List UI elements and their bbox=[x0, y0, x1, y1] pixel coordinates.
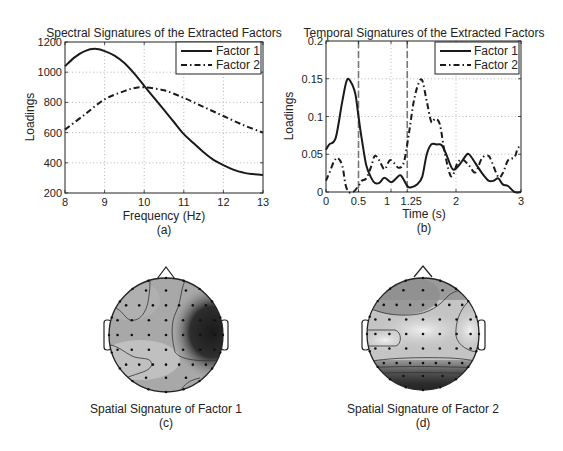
y-tick-label: 0.05 bbox=[302, 148, 323, 160]
electrode-dot bbox=[439, 333, 442, 336]
x-tick-label: 10 bbox=[138, 196, 150, 208]
electrode-dot bbox=[469, 347, 472, 350]
electrode-dot bbox=[148, 349, 151, 352]
electrode-dot bbox=[138, 304, 141, 307]
topomap-c-title: Spatial Signature of Factor 1 bbox=[90, 402, 242, 416]
y-tick-label: 1000 bbox=[38, 66, 62, 78]
electrode-dot bbox=[388, 333, 391, 336]
x-tick-label: 1 bbox=[384, 195, 390, 207]
electrode-dot bbox=[199, 319, 202, 322]
electrode-dot bbox=[478, 333, 480, 335]
topomap-d-caption: (d) bbox=[416, 416, 431, 430]
electrode-dot bbox=[182, 349, 185, 352]
electrode-dot bbox=[145, 289, 148, 292]
electrode-dot bbox=[422, 347, 425, 350]
chart-b-ylabel: Loadings bbox=[282, 92, 296, 141]
electrode-dot bbox=[119, 300, 121, 302]
x-tick-label: 1.25 bbox=[401, 195, 422, 207]
topomap-c-caption: (c) bbox=[159, 416, 173, 430]
electrode-dot bbox=[461, 304, 464, 307]
electrode-dot bbox=[376, 366, 378, 368]
electrode-dot bbox=[404, 280, 406, 282]
chart-a-legend: Factor 1 Factor 2 bbox=[176, 42, 261, 74]
electrode-dot bbox=[376, 300, 378, 302]
electrode-dot bbox=[402, 375, 405, 378]
electrode-dot bbox=[448, 362, 451, 365]
y-tick-label: 800 bbox=[44, 96, 62, 108]
electrode-dot bbox=[455, 378, 457, 380]
electrode-dot bbox=[439, 386, 441, 388]
chart-a-xlabel: Frequency (Hz) bbox=[123, 209, 206, 223]
electrode-dot bbox=[116, 334, 119, 337]
chart-b-legend: Factor 1 Factor 2 bbox=[435, 42, 519, 74]
electrode-dot bbox=[469, 333, 472, 336]
topomap-d-title: Spatial Signature of Factor 2 bbox=[347, 402, 499, 416]
electrode-dot bbox=[213, 334, 216, 337]
electrode-dot bbox=[211, 300, 213, 302]
x-tick-label: 8 bbox=[62, 196, 68, 208]
x-tick-label: 2 bbox=[453, 195, 459, 207]
electrode-dot bbox=[409, 362, 412, 365]
chart-b-lines bbox=[326, 79, 521, 193]
electrode-dot bbox=[138, 363, 141, 366]
electrode-dot bbox=[422, 362, 425, 365]
electrode-dot bbox=[388, 318, 391, 321]
y-tick-label: 1200 bbox=[38, 36, 62, 48]
nose-icon bbox=[414, 266, 432, 277]
electrode-dot bbox=[405, 318, 408, 321]
electrode-dot bbox=[455, 287, 457, 289]
x-tick-label: 3 bbox=[518, 195, 524, 207]
electrode-dot bbox=[439, 318, 442, 321]
electrode-dot bbox=[213, 349, 216, 352]
electrode-dot bbox=[182, 319, 185, 322]
x-tick-label: 9 bbox=[102, 196, 108, 208]
chart-b-xlabel: Time (s) bbox=[402, 207, 446, 221]
x-tick-label: 12 bbox=[217, 196, 229, 208]
electrode-dot bbox=[147, 388, 149, 390]
electrode-dot bbox=[125, 363, 128, 366]
electrode-dot bbox=[165, 391, 167, 393]
y-tick-label: 0.1 bbox=[308, 111, 323, 123]
electrode-dot bbox=[475, 350, 477, 352]
electrode-dot bbox=[383, 304, 386, 307]
electrode-dot bbox=[219, 316, 221, 318]
electrode-dot bbox=[205, 363, 208, 366]
electrode-dot bbox=[165, 376, 168, 379]
electrode-dot bbox=[448, 304, 451, 307]
electrode-dot bbox=[185, 376, 188, 379]
electrode-dot bbox=[441, 289, 444, 292]
electrode-dot bbox=[366, 333, 368, 335]
y-tick-label: 0 bbox=[317, 186, 323, 198]
electrode-dot bbox=[422, 289, 425, 292]
chart-temporal: Temporal Signatures of the Extracted Fac… bbox=[282, 26, 544, 235]
electrode-dot bbox=[165, 304, 168, 307]
electrode-dot bbox=[111, 351, 113, 353]
electrode-dot bbox=[198, 288, 200, 290]
electrode-dot bbox=[395, 362, 398, 365]
electrode-dot bbox=[152, 363, 155, 366]
x-tick-label: 11 bbox=[178, 196, 189, 208]
electrode-dot bbox=[388, 347, 391, 350]
x-tick-label: 0.5 bbox=[351, 195, 366, 207]
electrode-dot bbox=[409, 304, 412, 307]
electrode-dot bbox=[131, 334, 134, 337]
electrode-dot bbox=[145, 376, 148, 379]
electrode-dot bbox=[198, 380, 200, 382]
electrode-dot bbox=[131, 380, 133, 382]
legend-label-factor-1: Factor 1 bbox=[216, 44, 260, 58]
electrode-dot bbox=[182, 334, 185, 337]
electrode-dot bbox=[131, 288, 133, 290]
electrode-dot bbox=[422, 304, 425, 307]
electrode-dot bbox=[182, 280, 184, 282]
electrode-dot bbox=[182, 388, 184, 390]
electrode-dot bbox=[147, 280, 149, 282]
legend-label-factor-2: Factor 2 bbox=[216, 58, 260, 72]
electrode-dot bbox=[369, 315, 371, 317]
electrode-dot bbox=[119, 367, 121, 369]
legend-label-factor-1: Factor 1 bbox=[474, 44, 518, 58]
electrode-dot bbox=[435, 304, 438, 307]
electrode-dot bbox=[131, 349, 134, 352]
electrode-dot bbox=[152, 304, 155, 307]
electrode-dot bbox=[165, 349, 168, 352]
topomap-factor-1: Spatial Signature of Factor 1 (c) bbox=[90, 267, 252, 430]
